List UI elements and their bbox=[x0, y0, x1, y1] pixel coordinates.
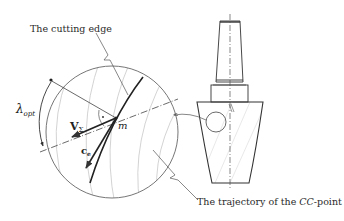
detail-circle bbox=[206, 112, 226, 132]
cutting-tool-diagram: λopt VΣ ce m The cutting edge The trajec… bbox=[0, 0, 344, 221]
detail-arrow bbox=[174, 114, 206, 120]
ce-vector bbox=[86, 118, 116, 168]
magnified-view bbox=[39, 60, 195, 205]
trajectory-line bbox=[40, 99, 178, 152]
cutting-edge-leader bbox=[96, 33, 128, 95]
trajectory-leader bbox=[153, 150, 198, 200]
right-angle-dot bbox=[102, 116, 104, 118]
cutting-edge-caption: The cutting edge bbox=[30, 23, 112, 34]
magnified-circle bbox=[46, 66, 178, 198]
point-m-label: m bbox=[118, 120, 127, 131]
normal-dot bbox=[49, 78, 52, 81]
trajectory-caption: The trajectory of the CC-point bbox=[197, 196, 342, 207]
normal-line bbox=[50, 80, 116, 118]
lambda-opt-arc bbox=[39, 82, 51, 146]
milling-tool bbox=[174, 14, 265, 190]
tool-collar bbox=[211, 85, 248, 102]
lambda-opt-label: λopt bbox=[15, 102, 35, 118]
ce-label: ce bbox=[81, 145, 91, 157]
tool-shank bbox=[216, 21, 243, 82]
v-sigma-label: VΣ bbox=[69, 120, 84, 134]
